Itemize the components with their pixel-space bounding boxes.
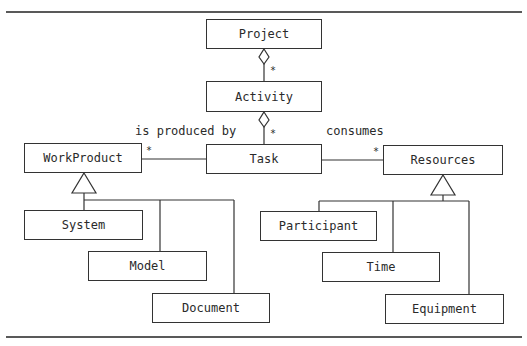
- class-name: System: [62, 218, 105, 232]
- class-name: Participant: [279, 219, 358, 233]
- class-participant: Participant: [260, 211, 377, 241]
- class-equipment: Equipment: [385, 294, 504, 324]
- class-resources: Resources: [383, 145, 503, 175]
- class-time: Time: [322, 252, 440, 282]
- class-task: Task: [206, 144, 322, 174]
- class-system: System: [24, 210, 143, 240]
- class-name: Task: [250, 152, 279, 166]
- class-name: Equipment: [412, 302, 477, 316]
- generalization-triangle-icon: [72, 173, 96, 193]
- association-label-produced-by: is produced by: [135, 124, 236, 138]
- class-name: Time: [367, 260, 396, 274]
- multiplicity-project-activity: *: [270, 65, 276, 76]
- class-name: Project: [239, 27, 290, 41]
- class-project: Project: [206, 19, 322, 49]
- class-model: Model: [88, 251, 207, 281]
- multiplicity-activity-task: *: [270, 128, 276, 139]
- association-label-consumes: consumes: [326, 124, 384, 138]
- class-activity: Activity: [206, 81, 322, 112]
- class-workproduct: WorkProduct: [24, 143, 142, 173]
- class-name: Model: [129, 259, 165, 273]
- aggregation-diamond-icon: [259, 49, 269, 64]
- class-name: Document: [182, 301, 240, 315]
- class-name: Resources: [410, 153, 475, 167]
- multiplicity-task-resources: *: [373, 146, 379, 157]
- aggregation-diamond-icon: [259, 112, 269, 127]
- generalization-triangle-icon: [431, 175, 455, 195]
- multiplicity-task-workproduct: *: [146, 145, 152, 156]
- class-document: Document: [152, 293, 270, 323]
- class-name: Activity: [235, 90, 293, 104]
- class-name: WorkProduct: [43, 151, 122, 165]
